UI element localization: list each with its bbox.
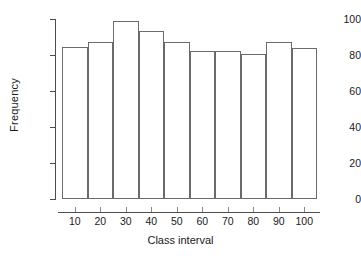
y-tick-label-40: 40	[315, 122, 361, 133]
bar-60	[190, 51, 216, 200]
x-tick-40	[151, 207, 152, 212]
x-tick-90	[279, 207, 280, 212]
x-tick-label-100: 100	[284, 216, 324, 227]
x-axis-title: Class interval	[0, 234, 361, 246]
x-axis-line	[58, 212, 320, 213]
x-tick-20	[100, 207, 101, 212]
bar-50	[164, 42, 190, 199]
x-tick-30	[126, 207, 127, 212]
y-tick-label-100: 100	[315, 14, 361, 25]
y-tick-40	[50, 127, 55, 128]
x-tick-60	[202, 207, 203, 212]
bar-80	[241, 54, 267, 199]
x-tick-80	[253, 207, 254, 212]
x-tick-100	[304, 207, 305, 212]
bar-100	[292, 48, 318, 199]
x-tick-70	[228, 207, 229, 212]
bar-30	[113, 21, 139, 199]
y-tick-80	[50, 55, 55, 56]
y-tick-60	[50, 91, 55, 92]
x-tick-10	[75, 207, 76, 212]
y-tick-100	[50, 19, 55, 20]
y-tick-label-0: 0	[315, 194, 361, 205]
bar-10	[62, 47, 88, 199]
bar-40	[139, 31, 165, 199]
y-tick-label-80: 80	[315, 50, 361, 61]
y-tick-20	[50, 163, 55, 164]
y-axis-line	[55, 19, 56, 200]
bar-20	[88, 42, 114, 200]
y-tick-0	[50, 199, 55, 200]
x-tick-50	[177, 207, 178, 212]
bar-90	[266, 42, 292, 199]
bar-70	[215, 51, 241, 200]
y-tick-label-60: 60	[315, 86, 361, 97]
histogram-figure: Frequency 020406080100 10203040506070809…	[0, 0, 361, 259]
y-tick-label-20: 20	[315, 158, 361, 169]
plot-area: 020406080100 102030405060708090100	[0, 0, 361, 259]
